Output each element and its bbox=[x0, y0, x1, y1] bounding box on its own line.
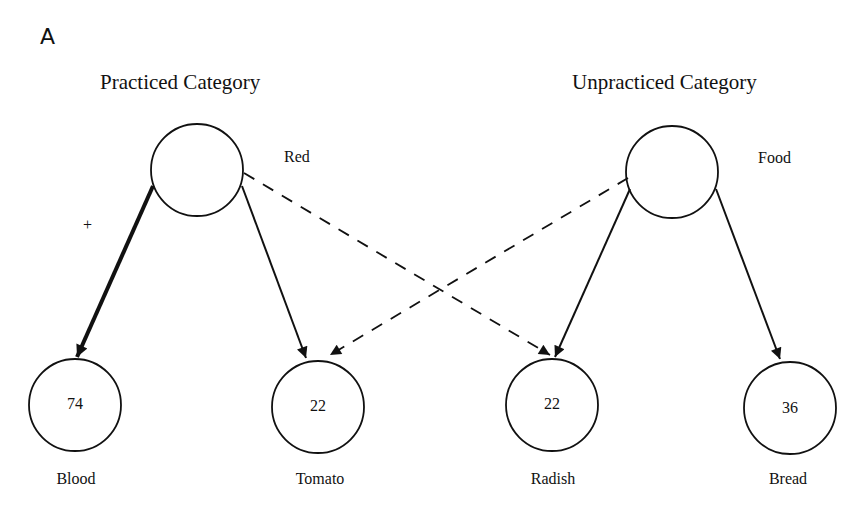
node-label-tomato: Tomato bbox=[270, 470, 370, 488]
unpracticed-category-title: Unpracticed Category bbox=[572, 70, 757, 95]
edge-food-bread bbox=[716, 189, 780, 359]
category-node-unpracticed bbox=[626, 126, 718, 218]
edge-red-radish-dashed bbox=[244, 173, 550, 355]
node-label-radish: Radish bbox=[503, 470, 603, 488]
node-label-bread: Bread bbox=[738, 470, 838, 488]
node-value-tomato: 22 bbox=[288, 397, 348, 415]
practiced-category-title: Practiced Category bbox=[100, 70, 260, 95]
node-value-blood: 74 bbox=[45, 395, 105, 413]
category-label-food: Food bbox=[758, 149, 791, 167]
node-value-bread: 36 bbox=[760, 399, 820, 417]
node-label-blood: Blood bbox=[26, 470, 126, 488]
edge-red-blood bbox=[77, 186, 153, 357]
node-value-radish: 22 bbox=[522, 395, 582, 413]
practiced-marker-plus: + bbox=[83, 216, 92, 234]
edge-food-tomato-dashed bbox=[330, 178, 628, 355]
panel-letter: A bbox=[40, 24, 55, 49]
category-label-red: Red bbox=[284, 148, 310, 166]
diagram-canvas: A Practiced Category Unpracticed Categor… bbox=[0, 0, 865, 523]
category-node-practiced bbox=[151, 124, 243, 216]
edge-red-tomato bbox=[242, 186, 306, 358]
